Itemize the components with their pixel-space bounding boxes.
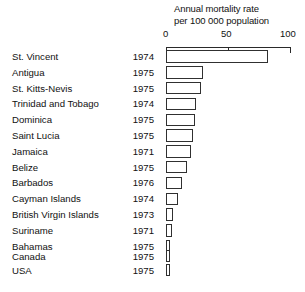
chart-row: Barbados1976	[0, 175, 305, 191]
axis-title-line-2: per 100 000 population	[174, 15, 304, 27]
bar	[166, 145, 191, 157]
chart-row: Jamaica1971	[0, 144, 305, 160]
chart-row: St. Vincent1974	[0, 49, 305, 65]
country-label: British Virgin Islands	[12, 208, 99, 222]
year-label: 1975	[96, 113, 154, 127]
country-label: Trinidad and Tobago	[12, 97, 99, 111]
year-label: 1973	[96, 208, 154, 222]
year-label: 1975	[96, 250, 154, 264]
country-label: Suriname	[12, 224, 53, 238]
bar-rows-north-america: Canada1975USA1975	[0, 249, 305, 277]
chart-row: British Virgin Islands1973	[0, 207, 305, 223]
year-label: 1975	[96, 161, 154, 175]
chart-row: Cayman Islands1974	[0, 191, 305, 207]
bar	[166, 224, 172, 236]
bar	[166, 250, 170, 263]
x-tick-label-0: 0	[163, 28, 168, 39]
country-label: Barbados	[12, 176, 53, 190]
chart-row: Belize1975	[0, 160, 305, 176]
horizontal-bar-chart: Annual mortality rate per 100 000 popula…	[0, 0, 305, 292]
bar	[166, 66, 203, 78]
chart-row: USA1975	[0, 263, 305, 277]
axis-title-line-1: Annual mortality rate	[174, 3, 304, 15]
chart-row: St. Kitts-Nevis1975	[0, 81, 305, 97]
chart-row: Dominica1975	[0, 112, 305, 128]
chart-row: Saint Lucia1975	[0, 128, 305, 144]
country-label: USA	[12, 264, 32, 278]
chart-row: Trinidad and Tobago1974	[0, 96, 305, 112]
chart-row: Suriname1971	[0, 223, 305, 239]
bar	[166, 114, 195, 126]
bar	[166, 50, 268, 62]
country-label: Dominica	[12, 113, 52, 127]
year-label: 1975	[96, 264, 154, 278]
country-label: Canada	[12, 250, 46, 264]
country-label: St. Kitts-Nevis	[12, 82, 72, 96]
x-tick-label-100: 100	[280, 28, 296, 39]
year-label: 1975	[96, 129, 154, 143]
bar	[166, 208, 173, 220]
bar	[166, 82, 201, 94]
bar	[166, 193, 178, 205]
chart-row: Antigua1975	[0, 65, 305, 81]
bar	[166, 264, 170, 277]
chart-row: Canada1975	[0, 249, 305, 263]
bar	[166, 161, 187, 173]
country-label: St. Vincent	[12, 50, 58, 64]
year-label: 1971	[96, 145, 154, 159]
year-label: 1974	[96, 192, 154, 206]
year-label: 1976	[96, 176, 154, 190]
x-tick-label-50: 50	[221, 28, 232, 39]
year-label: 1975	[96, 66, 154, 80]
year-label: 1974	[96, 50, 154, 64]
bar	[166, 177, 182, 189]
country-label: Antigua	[12, 66, 45, 80]
country-label: Belize	[12, 161, 38, 175]
chart-axis-title: Annual mortality rate per 100 000 popula…	[174, 3, 304, 26]
country-label: Jamaica	[12, 145, 48, 159]
year-label: 1975	[96, 82, 154, 96]
country-label: Cayman Islands	[12, 192, 81, 206]
country-label: Saint Lucia	[12, 129, 59, 143]
year-label: 1971	[96, 224, 154, 238]
bar	[166, 129, 193, 141]
bar	[166, 98, 196, 110]
bar-rows-caribbean: St. Vincent1974Antigua1975St. Kitts-Nevi…	[0, 49, 305, 254]
year-label: 1974	[96, 97, 154, 111]
